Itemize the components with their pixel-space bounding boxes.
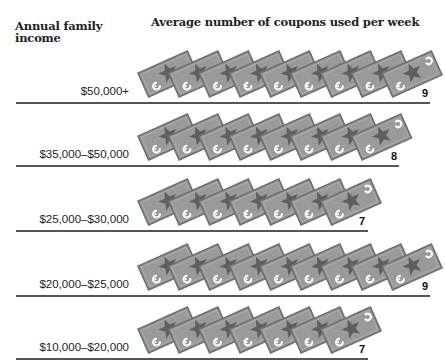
income-label: $10,000–$20,000 (39, 341, 129, 353)
pictograph-row: $50,000+9 (0, 34, 445, 104)
chart-title: Average number of coupons used per week (151, 16, 419, 28)
income-label: $50,000+ (81, 85, 129, 97)
row-divider (16, 358, 368, 360)
pictograph-row: $20,000–$25,0009 (0, 227, 445, 297)
income-label: $20,000–$25,000 (39, 278, 129, 290)
pictograph-row: $35,000–$50,0008 (0, 97, 445, 167)
income-label: $35,000–$50,000 (39, 148, 129, 160)
income-label: $25,000–$30,000 (39, 213, 129, 225)
pictograph-row: $10,000–$20,0007 (0, 290, 445, 360)
coupon-count-value: 7 (359, 215, 365, 227)
coupon-count-value: 7 (359, 343, 365, 355)
coupon-icons (0, 34, 445, 104)
pictograph-row: $25,000–$30,0007 (0, 162, 445, 232)
coupon-count-value: 8 (391, 150, 397, 162)
